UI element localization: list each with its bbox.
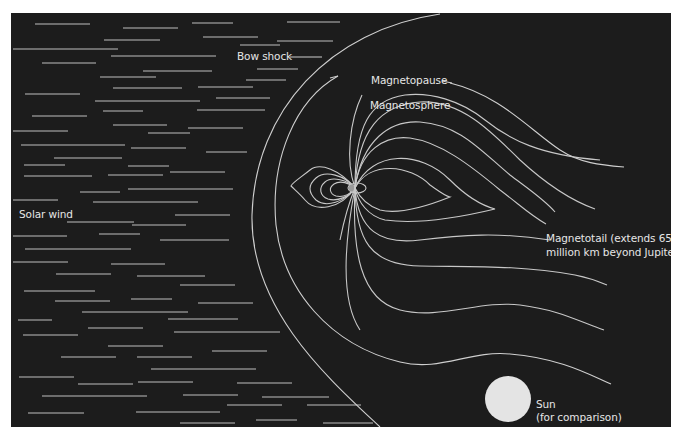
sun-label-line1: Sun (536, 398, 556, 411)
sun-label-line2: (for comparison) (536, 411, 622, 424)
magnetosphere-diagram (11, 13, 671, 427)
magnetopause-curve (275, 76, 611, 384)
magnetotail-label-line2: million km beyond Jupiter) (546, 246, 671, 259)
magnetopause-label: Magnetopause (371, 74, 447, 87)
sun-disc (485, 376, 531, 422)
bow-shock-label: Bow shock (237, 50, 292, 63)
magnetotail-label-line1: Magnetotail (extends 650 (546, 232, 671, 245)
solar-wind-label: Solar wind (19, 208, 73, 221)
diagram-frame: Bow shock Magnetopause Magnetosphere Sol… (11, 13, 671, 427)
solar-wind-streaks (13, 22, 373, 423)
magnetosphere-label: Magnetosphere (370, 99, 450, 112)
magnetopause-top (450, 83, 624, 167)
field-lines (291, 94, 607, 330)
